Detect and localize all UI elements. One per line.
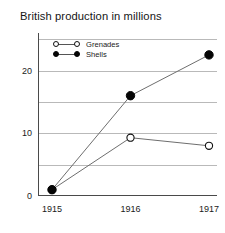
legend-item-grenades: Grenades [52,39,119,49]
chart-figure: British production in millions 01020 191… [0,0,225,233]
y-tick-label: 10 [6,128,32,138]
series-line-shells [52,55,209,190]
chart-title: British production in millions [20,9,162,23]
series-group [48,51,213,194]
legend-item-shells: Shells [52,49,119,59]
y-tick-label: 20 [6,66,32,76]
x-tick-label: 1916 [120,204,140,214]
legend-marker-open-circle-icon [52,39,82,49]
legend-marker-filled-circle-icon [52,49,82,59]
data-point-shells-1916 [126,92,134,100]
data-point-shells-1915 [48,186,56,194]
y-tick-label: 0 [6,191,32,201]
x-tick-label: 1917 [199,204,219,214]
series-line-grenades [52,138,209,190]
legend-label-grenades: Grenades [86,40,119,49]
chart-legend: Grenades Shells [52,39,119,59]
data-point-shells-1917 [205,51,213,59]
x-tick-label: 1915 [42,204,62,214]
data-point-grenades-1916 [127,134,134,141]
data-point-grenades-1917 [205,142,212,149]
legend-label-shells: Shells [86,50,107,59]
